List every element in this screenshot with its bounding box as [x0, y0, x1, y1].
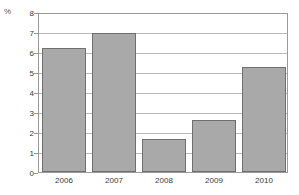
y-tickmark — [34, 53, 38, 54]
bar-slot — [242, 14, 286, 172]
x-tick-label-2009: 2009 — [192, 176, 236, 186]
x-axis: 2006 2007 2008 2009 2010 — [39, 176, 287, 190]
bar-2006[interactable] — [42, 48, 86, 172]
y-tickmark — [34, 113, 38, 114]
y-tickmark — [34, 133, 38, 134]
y-tick-label: 2 — [20, 130, 34, 138]
y-tick-label: 3 — [20, 110, 34, 118]
bars-container — [39, 14, 287, 172]
y-tickmark — [34, 153, 38, 154]
y-axis: 8 7 6 5 4 3 2 1 0 — [16, 13, 34, 173]
bar-slot — [192, 14, 236, 172]
bar-chart: % 8 7 6 5 4 3 2 1 0 — [0, 0, 299, 195]
y-tickmark — [34, 13, 38, 14]
bar-slot — [42, 14, 86, 172]
y-tick-label: 7 — [20, 30, 34, 38]
x-tick-label-2010: 2010 — [242, 176, 286, 186]
y-tick-label: 8 — [20, 10, 34, 18]
bar-2007[interactable] — [92, 33, 136, 172]
y-tick-label: 1 — [20, 150, 34, 158]
bar-slot — [92, 14, 136, 172]
y-axis-unit-label: % — [4, 7, 11, 17]
y-tickmark — [34, 173, 38, 174]
y-tickmark — [34, 33, 38, 34]
y-tick-label: 4 — [20, 90, 34, 98]
bar-slot — [142, 14, 186, 172]
y-tick-label: 6 — [20, 50, 34, 58]
y-tickmark — [34, 73, 38, 74]
y-tick-label: 0 — [20, 170, 34, 178]
x-tick-label-2008: 2008 — [142, 176, 186, 186]
bar-2009[interactable] — [192, 120, 236, 172]
y-tick-label: 5 — [20, 70, 34, 78]
x-tick-label-2007: 2007 — [92, 176, 136, 186]
x-tick-label-2006: 2006 — [42, 176, 86, 186]
bar-2010[interactable] — [242, 67, 286, 172]
y-tickmark — [34, 93, 38, 94]
bar-2008[interactable] — [142, 139, 186, 172]
